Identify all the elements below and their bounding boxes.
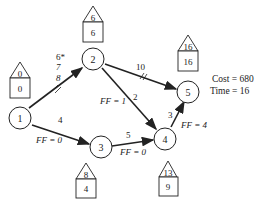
svg-text:16: 16 [184,42,194,52]
network-diagram: 1 2 3 4 5 0 0 6 6 8 4 13 9 [0,0,264,206]
time-box-node-3: 8 4 [76,163,96,198]
svg-text:16: 16 [184,57,194,67]
svg-text:13: 13 [164,168,174,178]
node-5: 5 [177,81,199,103]
edge-1-3-duration: 4 [58,115,63,125]
edge-3-4-duration: 5 [126,130,131,140]
svg-text:0: 0 [18,84,23,94]
edge-3-4-free-float: FF = 0 [119,147,147,157]
svg-text:6: 6 [91,13,96,23]
time-box-node-1: 0 0 [10,62,30,98]
node-2: 2 [82,48,104,70]
svg-text:6: 6 [91,28,96,38]
node-3: 3 [90,136,112,158]
edge-1-2-duration-1: 6* [56,52,66,62]
summary-cost: Cost = 680 [212,74,254,84]
time-box-node-4: 13 9 [159,161,178,196]
svg-text:8: 8 [84,170,89,180]
edge-2-4-duration: 2 [133,92,138,102]
svg-text:9: 9 [166,182,171,192]
svg-text:4: 4 [163,134,168,145]
time-box-node-2: 6 6 [83,6,103,42]
crash-mark-icon [52,85,58,91]
edge-4-5-duration: 3 [168,110,173,120]
node-4: 4 [154,128,176,150]
svg-text:1: 1 [18,113,23,124]
edge-2-4-free-float: FF = 1 [99,96,126,106]
svg-text:0: 0 [18,69,23,79]
edge-1-2-duration-3: 8 [56,73,61,83]
edge-4-5-free-float: FF = 4 [180,120,208,130]
edge-3-4 [112,140,153,146]
svg-text:4: 4 [84,184,89,194]
svg-text:5: 5 [186,87,191,98]
node-1: 1 [9,107,31,129]
edge-2-5-duration: 10 [136,62,146,72]
svg-text:3: 3 [99,142,104,153]
edge-1-3-free-float: FF = 0 [35,135,63,145]
time-box-node-5: 16 16 [178,35,198,71]
svg-text:2: 2 [91,54,96,65]
summary-time: Time = 16 [210,86,250,96]
edge-1-2-duration-2: 7 [56,62,61,72]
